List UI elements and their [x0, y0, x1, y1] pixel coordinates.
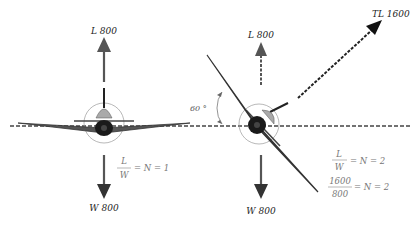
lift-label-right: L 800: [247, 30, 274, 40]
weight-arrowhead-right: [254, 184, 268, 199]
eq-left-num: L: [120, 156, 127, 166]
weight-arrowhead-left: [97, 184, 111, 199]
airplane-level-icon: [18, 88, 190, 143]
bank-angle-arc: [217, 92, 222, 124]
eq-right2-rhs: = N = 2: [354, 182, 389, 192]
weight-label-right: W 800: [246, 206, 276, 216]
lift-arrowhead-right: [255, 42, 267, 56]
load-factor-diagram: L 800 W 800 L W = N = 1 L 800: [0, 0, 415, 226]
airplane-banked-icon: [207, 55, 318, 192]
eq-right1-den: W: [335, 162, 345, 172]
eq-right1-num: L: [335, 149, 342, 159]
equation-left: L W = N = 1: [117, 156, 169, 180]
eq-right2-num: 1600: [329, 176, 351, 186]
weight-label-left: W 800: [89, 203, 119, 213]
eq-left-rhs: = N = 1: [134, 163, 169, 173]
bank-angle-label: 60 °: [190, 104, 207, 113]
total-lift-label: TL 1600: [372, 9, 410, 19]
equation-right-2: 1600 800 = N = 2: [328, 176, 389, 199]
total-lift-arrow: [298, 30, 372, 98]
eq-right2-den: 800: [332, 189, 349, 199]
lift-label-left: L 800: [90, 26, 117, 36]
eq-right1-rhs: = N = 2: [350, 156, 385, 166]
level-flight-group: L 800 W 800 L W = N = 1: [18, 26, 190, 213]
lift-arrowhead-left: [97, 37, 111, 52]
equation-right-1: L W = N = 2: [332, 149, 385, 172]
eq-left-den: W: [120, 170, 130, 180]
banked-turn-group: L 800 TL 1600 60 ° W 800 L W = N =: [190, 9, 410, 216]
